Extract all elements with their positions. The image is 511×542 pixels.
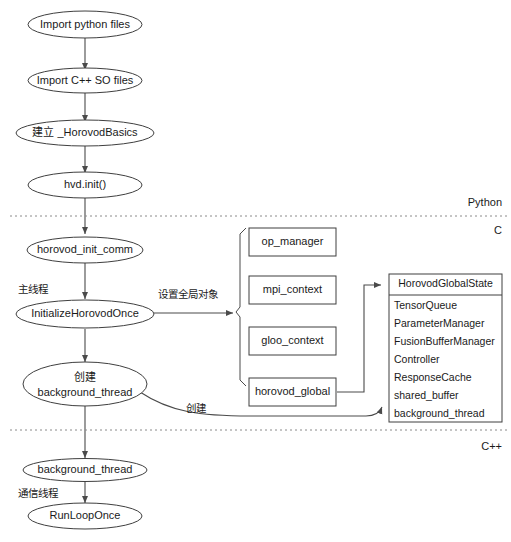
annotation-comm-thread: 通信线程 bbox=[18, 487, 59, 499]
node-import-cpp-so-files[interactable]: Import C++ SO files bbox=[28, 68, 142, 93]
node-text-line1: 创建 bbox=[74, 370, 96, 383]
node-shape-ellipse bbox=[23, 362, 147, 406]
node-run-loop-once[interactable]: RunLoopOnce bbox=[28, 503, 142, 529]
box-text: op_manager bbox=[262, 235, 324, 247]
node-import-python-files[interactable]: Import python files bbox=[28, 11, 142, 38]
node-text: InitializeHorovodOnce bbox=[31, 307, 139, 319]
node-create-horovodbasics[interactable]: 建立 _HorovodBasics bbox=[16, 120, 154, 146]
global-state-title: HorovodGlobalState bbox=[398, 277, 493, 289]
global-state-table[interactable]: HorovodGlobalState TensorQueue Parameter… bbox=[389, 274, 502, 422]
global-state-field-parametermanager: ParameterManager bbox=[394, 317, 485, 329]
node-text-line2: background_thread bbox=[38, 386, 133, 398]
box-horovod-global[interactable]: horovod_global bbox=[249, 378, 336, 406]
edge-horovod-global-to-global-state bbox=[337, 285, 381, 392]
node-text: RunLoopOnce bbox=[50, 509, 121, 521]
node-text: Import python files bbox=[40, 18, 130, 30]
global-state-field-fusionbuffermanager: FusionBufferManager bbox=[394, 335, 495, 347]
box-gloo-context[interactable]: gloo_context bbox=[249, 327, 336, 355]
node-background-thread[interactable]: background_thread bbox=[23, 459, 147, 482]
diagram-canvas: Python C C++ 设置全局对象 创建 Import python fil… bbox=[0, 0, 511, 542]
box-text: mpi_context bbox=[263, 283, 322, 295]
global-state-field-shared-buffer: shared_buffer bbox=[394, 389, 459, 401]
node-text: horovod_init_comm bbox=[37, 243, 133, 255]
node-text: background_thread bbox=[38, 463, 133, 475]
box-text: gloo_context bbox=[261, 334, 323, 346]
box-mpi-context[interactable]: mpi_context bbox=[249, 276, 336, 304]
annotation-set-global-object: 设置全局对象 bbox=[158, 288, 218, 300]
global-state-field-background-thread: background_thread bbox=[394, 407, 485, 419]
node-text: 建立 _HorovodBasics bbox=[32, 125, 138, 138]
global-state-field-controller: Controller bbox=[394, 353, 440, 365]
global-state-field-responsecache: ResponseCache bbox=[394, 371, 472, 383]
box-text: horovod_global bbox=[255, 385, 330, 397]
global-state-field-tensorqueue: TensorQueue bbox=[394, 299, 457, 311]
node-hvd-init[interactable]: hvd.init() bbox=[28, 172, 142, 198]
zone-label-cpp: C++ bbox=[481, 440, 502, 452]
node-horovod-init-comm[interactable]: horovod_init_comm bbox=[27, 237, 143, 263]
box-op-manager[interactable]: op_manager bbox=[249, 228, 336, 256]
annotation-create-edge: 创建 bbox=[186, 402, 207, 414]
annotation-main-thread: 主线程 bbox=[18, 283, 49, 295]
flowchart: Python C C++ 设置全局对象 创建 Import python fil… bbox=[0, 0, 511, 542]
node-initialize-horovod-once[interactable]: InitializeHorovodOnce bbox=[16, 300, 154, 328]
object-group-brace bbox=[236, 228, 246, 386]
zone-label-python: Python bbox=[468, 196, 502, 208]
node-text: hvd.init() bbox=[64, 178, 106, 190]
zone-label-c: C bbox=[494, 224, 502, 236]
node-text: Import C++ SO files bbox=[37, 74, 134, 86]
node-create-background-thread[interactable]: 创建 background_thread bbox=[23, 362, 147, 406]
